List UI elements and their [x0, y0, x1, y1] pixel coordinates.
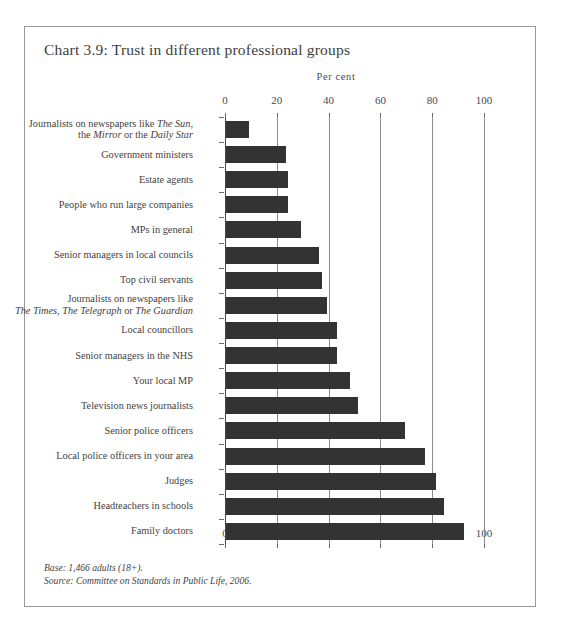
tick-mark-20 [277, 544, 278, 548]
category-label: Family doctors [11, 525, 193, 537]
y-tick-mark [219, 343, 224, 344]
footnotes: Base: 1,466 adults (18+). Source: Commit… [44, 562, 251, 587]
bar-row [225, 142, 484, 167]
y-tick-mark [219, 368, 224, 369]
chart-frame: Chart 3.9: Trust in different profession… [24, 26, 536, 607]
bar [226, 247, 319, 264]
category-label: Local police officers in your area [11, 450, 193, 462]
y-tick-mark [219, 444, 224, 445]
bar-row [225, 293, 484, 318]
y-tick-mark [219, 418, 224, 419]
category-label: Government ministers [11, 149, 193, 161]
bar [226, 297, 327, 314]
bar [226, 272, 322, 289]
bar [226, 221, 301, 238]
bar-row [225, 217, 484, 242]
y-tick-mark [219, 117, 224, 118]
category-label: Top civil servants [11, 274, 193, 286]
category-label: Journalists on newspapers like The Sun,t… [11, 118, 193, 141]
page-title: Chart 3.9: Trust in different profession… [44, 41, 350, 59]
x-tick-label-60-top: 60 [375, 94, 386, 106]
category-label: Local councillors [11, 324, 193, 336]
chart-page: Chart 3.9: Trust in different profession… [0, 0, 564, 643]
axis-unit-label: Per cent [25, 71, 537, 82]
y-tick-mark [219, 519, 224, 520]
category-label: MPs in general [11, 224, 193, 236]
bar [226, 322, 337, 339]
y-tick-mark [219, 142, 224, 143]
bar [226, 121, 249, 138]
bar [226, 523, 464, 540]
y-tick-mark [219, 167, 224, 168]
bar [226, 347, 337, 364]
bars-group [225, 117, 484, 544]
bar [226, 448, 425, 465]
y-tick-mark [219, 544, 224, 545]
bar-row [225, 368, 484, 393]
footnote-base: Base: 1,466 adults (18+). [44, 562, 251, 575]
x-tick-label-80-top: 80 [427, 94, 438, 106]
x-tick-label-100-top: 100 [476, 94, 493, 106]
bar [226, 422, 405, 439]
bar-row [225, 469, 484, 494]
x-tick-label-40-top: 40 [323, 94, 334, 106]
category-labels: Journalists on newspapers like The Sun,t… [25, 117, 201, 544]
category-label: People who run large companies [11, 199, 193, 211]
y-tick-mark [219, 268, 224, 269]
tick-mark-100 [484, 113, 485, 117]
category-label: Television news journalists [11, 400, 193, 412]
x-tick-label-0-top: 0 [222, 94, 228, 106]
plot-area: 020406080100 020406080100 [201, 90, 485, 526]
y-tick-mark [219, 469, 224, 470]
bar [226, 372, 350, 389]
plot-inner [225, 117, 484, 544]
bar-row [225, 393, 484, 418]
bar-row [225, 318, 484, 343]
category-label: Headteachers in schools [11, 500, 193, 512]
bar [226, 146, 286, 163]
y-tick-mark [219, 293, 224, 294]
axis-unit-text: Per cent [317, 71, 356, 82]
y-tick-mark [219, 217, 224, 218]
bar-row [225, 117, 484, 142]
y-tick-mark [219, 494, 224, 495]
tick-mark-100 [484, 544, 485, 548]
category-label: Your local MP [11, 375, 193, 387]
bar-row [225, 167, 484, 192]
bar-row [225, 192, 484, 217]
y-tick-mark [219, 318, 224, 319]
bar-row [225, 519, 484, 544]
bar [226, 397, 358, 414]
bar-row [225, 268, 484, 293]
gridline-100 [484, 117, 485, 544]
category-label: Journalists on newspapers likeThe Times,… [11, 293, 193, 316]
category-label: Estate agents [11, 174, 193, 186]
y-tick-mark [219, 243, 224, 244]
category-label: Senior police officers [11, 425, 193, 437]
tick-mark-60 [380, 544, 381, 548]
footnote-source: Source: Committee on Standards in Public… [44, 575, 251, 588]
bar [226, 196, 288, 213]
bar-row [225, 343, 484, 368]
y-tick-mark [219, 393, 224, 394]
tick-mark-0 [225, 544, 226, 548]
bar-row [225, 494, 484, 519]
bar-row [225, 418, 484, 443]
category-label: Senior managers in the NHS [11, 350, 193, 362]
bar [226, 498, 444, 515]
bar [226, 473, 436, 490]
bar [226, 171, 288, 188]
y-tick-mark [219, 192, 224, 193]
bar-row [225, 243, 484, 268]
tick-mark-80 [432, 544, 433, 548]
tick-mark-40 [329, 544, 330, 548]
category-label: Senior managers in local councils [11, 249, 193, 261]
category-label: Judges [11, 475, 193, 487]
x-axis-ticks-top: 020406080100 [225, 94, 484, 112]
bar-row [225, 444, 484, 469]
x-tick-label-20-top: 20 [271, 94, 282, 106]
